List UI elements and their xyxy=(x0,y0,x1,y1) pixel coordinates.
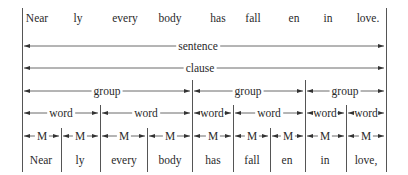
bottom-word: every xyxy=(111,154,137,166)
group-label: group xyxy=(92,85,123,97)
morpheme-label: M xyxy=(163,130,177,142)
bottom-word: fall xyxy=(244,154,259,166)
morpheme-label: M xyxy=(206,130,220,142)
morpheme-label: M xyxy=(35,130,49,142)
bottom-word: ly xyxy=(76,154,85,166)
bottom-word: body xyxy=(159,154,182,166)
clause-label: clause xyxy=(184,62,217,74)
group-label: group xyxy=(330,85,361,97)
word-label: word xyxy=(47,107,75,119)
bottom-word: en xyxy=(282,154,293,166)
morpheme-label: M xyxy=(117,130,131,142)
morpheme-label: M xyxy=(73,130,87,142)
bottom-word: in xyxy=(321,154,330,166)
bottom-word: has xyxy=(205,154,220,166)
morpheme-label: M xyxy=(359,130,373,142)
morpheme-label: M xyxy=(281,130,295,142)
bottom-word: Near xyxy=(30,154,52,166)
word-label: word xyxy=(354,107,378,119)
word-label: word xyxy=(132,107,160,119)
word-label: word xyxy=(200,107,224,119)
morpheme-label: M xyxy=(245,130,259,142)
morpheme-label: M xyxy=(318,130,332,142)
word-label: word xyxy=(313,107,337,119)
sentence-label: sentence xyxy=(176,40,220,52)
group-label: group xyxy=(233,85,264,97)
word-label: word xyxy=(255,107,283,119)
bottom-word: love, xyxy=(355,154,378,166)
